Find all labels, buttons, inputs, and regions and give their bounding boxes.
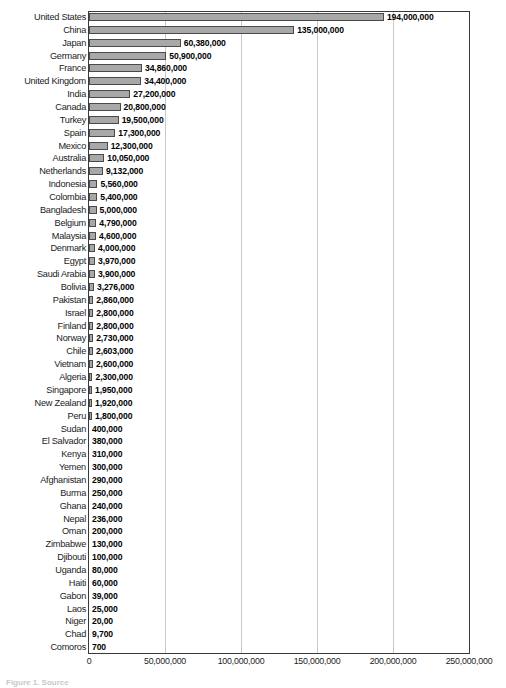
category-label: Indonesia: [48, 178, 86, 191]
category-label: Niger: [65, 615, 86, 628]
bar-track: 194,000,000: [89, 11, 506, 24]
value-label: 5,560,000: [100, 178, 137, 191]
value-label: 310,000: [92, 448, 122, 461]
chart-row: United States194,000,000: [0, 11, 506, 24]
value-label: 60,000: [92, 577, 118, 590]
chart-row: Israel2,800,000: [0, 307, 506, 320]
value-label: 20,800,000: [124, 101, 166, 114]
chart-row: El Salvador380,000: [0, 435, 506, 448]
value-label: 25,000: [92, 603, 118, 616]
x-tick-label: 150,000,000: [294, 656, 341, 666]
bar-track: 5,400,000: [89, 191, 506, 204]
chart-row: Spain17,300,000: [0, 127, 506, 140]
chart-row: Germany50,900,000: [0, 50, 506, 63]
bar-track: 80,000: [89, 564, 506, 577]
bar-track: 10,050,000: [89, 152, 506, 165]
chart-row: Singapore1,950,000: [0, 384, 506, 397]
value-label: 1,800,000: [95, 410, 132, 423]
value-label: 700: [92, 641, 106, 654]
bar-track: 250,000: [89, 487, 506, 500]
category-label: Japan: [62, 37, 86, 50]
value-label: 2,603,000: [96, 345, 133, 358]
bar-track: 60,380,000: [89, 37, 506, 50]
value-label: 2,860,000: [96, 294, 133, 307]
bar-track: 4,600,000: [89, 230, 506, 243]
chart-row: Djibouti100,000: [0, 551, 506, 564]
bar-track: 9,700: [89, 628, 506, 641]
category-label: Laos: [67, 603, 86, 616]
value-label: 240,000: [92, 500, 122, 513]
bar-track: 20,00: [89, 615, 506, 628]
value-label: 4,000,000: [98, 242, 135, 255]
value-label: 2,300,000: [95, 371, 132, 384]
chart-row: China135,000,000: [0, 24, 506, 37]
chart-rows: United States194,000,000China135,000,000…: [0, 11, 506, 654]
figure-caption: Figure 1. Source: [6, 678, 69, 688]
bar: [89, 64, 142, 72]
category-label: China: [63, 24, 86, 37]
chart-row: Comoros700: [0, 641, 506, 654]
chart-row: Saudi Arabia3,900,000: [0, 268, 506, 281]
bar-track: 135,000,000: [89, 24, 506, 37]
chart-row: Sudan400,000: [0, 423, 506, 436]
x-axis: 050,000,000100,000,000150,000,000200,000…: [88, 656, 470, 672]
bar: [89, 142, 108, 150]
category-label: Israel: [65, 307, 86, 320]
value-label: 4,790,000: [99, 217, 136, 230]
bar: [89, 309, 93, 317]
value-label: 12,300,000: [111, 140, 153, 153]
value-label: 5,000,000: [100, 204, 137, 217]
category-label: Australia: [53, 152, 87, 165]
value-label: 5,400,000: [100, 191, 137, 204]
value-label: 19,500,000: [122, 114, 164, 127]
value-label: 3,970,000: [98, 255, 135, 268]
x-tick-label: 250,000,000: [446, 656, 493, 666]
chart-row: Australia10,050,000: [0, 152, 506, 165]
bar-track: 2,800,000: [89, 320, 506, 333]
bar: [89, 270, 95, 278]
category-label: Spain: [64, 127, 86, 140]
bar-track: 1,920,000: [89, 397, 506, 410]
value-label: 100,000: [92, 551, 122, 564]
bar-track: 12,300,000: [89, 140, 506, 153]
bar-track: 1,800,000: [89, 410, 506, 423]
bar: [89, 360, 93, 368]
bar-track: 2,603,000: [89, 345, 506, 358]
category-label: Djibouti: [57, 551, 86, 564]
category-label: Canada: [55, 101, 86, 114]
value-label: 380,000: [92, 435, 122, 448]
value-label: 3,900,000: [98, 268, 135, 281]
value-label: 17,300,000: [118, 127, 160, 140]
chart-row: Chile2,603,000: [0, 345, 506, 358]
category-label: Netherlands: [39, 165, 86, 178]
chart-row: Colombia5,400,000: [0, 191, 506, 204]
category-label: Colombia: [49, 191, 86, 204]
value-label: 1,920,000: [95, 397, 132, 410]
category-label: Nepal: [63, 513, 86, 526]
bar-track: 17,300,000: [89, 127, 506, 140]
category-label: Bangladesh: [40, 204, 86, 217]
bar-track: 20,800,000: [89, 101, 506, 114]
bar-track: 240,000: [89, 500, 506, 513]
category-label: Comoros: [50, 641, 86, 654]
bar: [89, 154, 104, 162]
category-label: Germany: [50, 50, 86, 63]
chart-row: Mexico12,300,000: [0, 140, 506, 153]
bar: [89, 296, 93, 304]
value-label: 135,000,000: [297, 24, 344, 37]
bar-track: 3,900,000: [89, 268, 506, 281]
category-label: Afghanistan: [40, 474, 86, 487]
x-tick-label: 50,000,000: [144, 656, 186, 666]
value-label: 194,000,000: [387, 11, 434, 24]
value-label: 290,000: [92, 474, 122, 487]
chart-row: Denmark4,000,000: [0, 242, 506, 255]
category-label: Oman: [62, 525, 86, 538]
bar-track: 25,000: [89, 603, 506, 616]
bar: [89, 399, 92, 407]
value-label: 9,132,000: [106, 165, 143, 178]
bar: [89, 386, 92, 394]
category-label: France: [59, 62, 86, 75]
bar-track: 2,300,000: [89, 371, 506, 384]
category-label: Gabon: [60, 590, 86, 603]
category-label: Vietnam: [54, 358, 86, 371]
